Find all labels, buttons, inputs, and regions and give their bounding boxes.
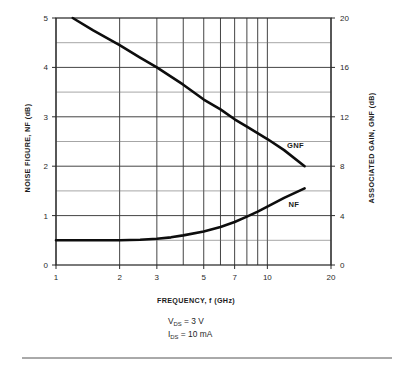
x-axis-tick-labels: 123571020: [54, 273, 336, 282]
x-tick-label: 5: [202, 273, 207, 282]
x-tick-label: 10: [263, 273, 272, 282]
y-tick-label: 3: [44, 113, 49, 122]
y2-tick-label: 8: [340, 162, 345, 171]
chart-canvas: 123571020 012345 048121620 GNFNF NOISE F…: [0, 0, 405, 368]
y-tick-label: 1: [44, 212, 49, 221]
y-axis-left-title: NOISE FIGURE, NF (dB): [23, 103, 32, 192]
y-tick-label: 5: [44, 14, 49, 23]
x-tick-label: 3: [155, 273, 160, 282]
y2-tick-label: 4: [340, 212, 345, 221]
bias-conditions-note: VDS = 3 VIDS = 10 mA: [168, 316, 213, 340]
x-tick-label: 2: [117, 273, 122, 282]
x-axis-title: FREQUENCY, f (GHz): [157, 296, 235, 305]
series-inline-labels: GNFNF: [287, 141, 304, 209]
y2-tick-label: 12: [340, 113, 349, 122]
y-tick-label: 4: [44, 63, 49, 72]
x-tick-label: 1: [54, 273, 59, 282]
bias-vds: VDS = 3 V: [168, 316, 204, 327]
x-tick-label: 20: [327, 273, 336, 282]
y-tick-label: 0: [44, 261, 49, 270]
y-axis-right-tick-labels: 048121620: [340, 14, 349, 270]
y2-tick-label: 0: [340, 261, 345, 270]
bias-ids: IDS = 10 mA: [168, 329, 213, 340]
noise-figure-chart-figure: 123571020 012345 048121620 GNFNF NOISE F…: [0, 0, 405, 368]
series-label-gnf: GNF: [287, 141, 304, 150]
x-tick-label: 7: [232, 273, 237, 282]
y2-tick-label: 16: [340, 63, 349, 72]
y-axis-left-tick-labels: 012345: [44, 14, 49, 270]
y2-tick-label: 20: [340, 14, 349, 23]
y-axis-right-title: ASSOCIATED GAIN, GNF (dB): [367, 92, 376, 203]
series-label-nf: NF: [289, 200, 300, 209]
y-tick-label: 2: [44, 162, 49, 171]
